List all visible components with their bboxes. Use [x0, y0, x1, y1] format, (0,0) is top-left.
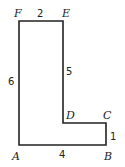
side-length-ab: 4	[59, 149, 65, 160]
vertex-label-f: F	[13, 7, 22, 20]
l-shape-outline	[19, 21, 106, 145]
side-length-de: 5	[66, 66, 72, 77]
side-length-bc: 1	[110, 131, 116, 142]
side-length-ef: 2	[37, 8, 43, 19]
side-length-fa: 6	[8, 76, 14, 87]
vertex-label-b: B	[103, 150, 112, 163]
vertex-label-e: E	[61, 7, 70, 20]
vertex-label-a: A	[11, 150, 20, 163]
vertex-label-c: C	[103, 109, 112, 122]
l-shape-diagram: F E D C B A 2 5 6 4 1	[0, 0, 125, 167]
vertex-label-d: D	[65, 109, 75, 122]
